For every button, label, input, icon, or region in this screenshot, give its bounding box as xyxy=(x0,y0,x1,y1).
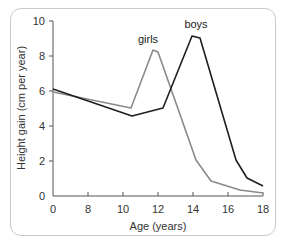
y-tick-0: 0 xyxy=(39,190,45,202)
x-tick-0: 0 xyxy=(50,203,56,215)
girls-line xyxy=(53,50,263,193)
x-tick-10: 10 xyxy=(117,203,129,215)
y-tick-6: 6 xyxy=(39,85,45,97)
x-axis-title: Age (years) xyxy=(130,220,187,232)
x-axis xyxy=(53,192,263,196)
y-tick-4: 4 xyxy=(39,120,45,132)
x-tick-14: 14 xyxy=(187,203,199,215)
y-tick-2: 2 xyxy=(39,155,45,167)
line-chart: 10 8 6 4 2 0 0 8 10 12 14 16 18 Age (yea… xyxy=(0,0,285,243)
boys-line xyxy=(53,36,263,186)
x-tick-12: 12 xyxy=(152,203,164,215)
girls-label: girls xyxy=(138,33,159,45)
x-tick-8: 8 xyxy=(85,203,91,215)
y-axis xyxy=(49,21,53,196)
y-axis-title: Height gain (cm per year) xyxy=(15,46,27,170)
y-tick-10: 10 xyxy=(33,15,45,27)
x-tick-16: 16 xyxy=(222,203,234,215)
boys-label: boys xyxy=(184,18,208,30)
x-tick-18: 18 xyxy=(257,203,269,215)
y-tick-8: 8 xyxy=(39,50,45,62)
